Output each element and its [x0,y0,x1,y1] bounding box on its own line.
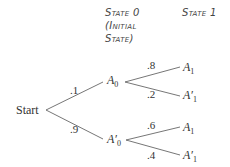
header-state-0-line1: State 0 [105,6,140,19]
prob-a0-a1: .8 [147,60,155,71]
prob-a0prime-a1prime: .4 [147,150,155,161]
prob-a0-a1prime: .2 [147,89,155,100]
node-a1-upper: A1 [183,61,194,78]
prob-a0prime-a1: .6 [147,120,155,131]
header-state-1: State 1 [182,6,217,19]
prob-start-a0: .1 [70,85,78,96]
start-node: Start [16,104,39,116]
header-state-0-line3: State) [105,32,140,45]
header-state-0-line2: (Initial [105,19,140,32]
header-state-0: State 0 (Initial State) [105,6,140,45]
node-a0prime: A′0 [107,133,121,150]
node-a1-lower: A1 [183,121,194,138]
prob-start-a0prime: .9 [70,124,78,135]
node-a1prime-upper: A′1 [183,89,197,106]
node-a1prime-lower: A′1 [183,149,197,166]
node-a0: A0 [107,74,118,91]
